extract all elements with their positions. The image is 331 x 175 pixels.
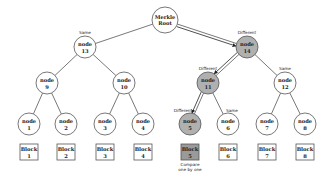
block-number: 3: [103, 153, 107, 159]
block-label: Block: [97, 146, 114, 152]
block-label: Block: [21, 146, 38, 152]
node-label: node: [22, 118, 37, 124]
node-number: 1: [27, 125, 31, 131]
node-number: 14: [243, 48, 251, 54]
node-number: 4: [141, 125, 145, 131]
node-label: node: [201, 77, 216, 83]
merkle-root-label-line2: Root: [158, 20, 172, 26]
compare-note: Compare one by one: [178, 162, 202, 172]
tree-edge: [55, 55, 77, 76]
tree-node-5: node5Different: [174, 108, 201, 135]
block-number: 4: [141, 153, 145, 159]
node-number: 8: [303, 125, 307, 131]
tree-node-14: node14Different: [236, 30, 258, 59]
node-label: node: [117, 77, 132, 83]
difference-arrow: [214, 53, 237, 74]
block-number: 1: [27, 153, 31, 159]
tree-edge: [33, 93, 42, 114]
node-number: 12: [281, 84, 289, 90]
node-label: node: [278, 77, 293, 83]
tree-node-4: node4: [132, 113, 154, 135]
tree-nodes: node13Samenode14Differentnode9node10node…: [18, 30, 316, 136]
merkle-root-node: Merkle Root: [152, 7, 178, 33]
block-label: Block: [182, 146, 199, 152]
block-number: 7: [265, 153, 269, 159]
node-label: node: [59, 118, 74, 124]
block-4: Block4: [134, 144, 152, 160]
block-label: Block: [220, 146, 237, 152]
merkle-tree-diagram: Merkle Root node13Samenode14Differentnod…: [0, 0, 331, 175]
block-label: Block: [58, 146, 75, 152]
tree-node-10: node10: [113, 72, 135, 94]
node-label: node: [183, 118, 198, 124]
node-status-label: Different: [199, 66, 218, 71]
block-number: 6: [226, 153, 230, 159]
tree-node-12: node12Same: [274, 66, 296, 95]
tree-edges: [33, 24, 300, 114]
node-label: node: [240, 41, 255, 47]
node-status-label: Same: [226, 108, 238, 113]
compare-note-line2: one by one: [178, 167, 202, 172]
block-2: Block2: [57, 144, 75, 160]
node-number: 6: [226, 125, 230, 131]
tree-node-6: node6Same: [217, 108, 239, 135]
data-blocks: Block1Block2Block3Block4Block5Block6Bloc…: [20, 144, 314, 160]
node-number: 2: [64, 125, 68, 131]
block-label: Block: [135, 146, 152, 152]
block-8: Block8: [296, 144, 314, 160]
tree-node-3: node3: [94, 113, 116, 135]
node-status-label: Same: [279, 66, 291, 71]
tree-node-9: node9: [36, 72, 58, 94]
node-label: node: [298, 118, 313, 124]
block-1: Block1: [20, 144, 38, 160]
tree-edge: [213, 93, 223, 114]
tree-node-1: node1: [18, 113, 40, 135]
node-number: 9: [45, 84, 49, 90]
tree-node-8: node8: [294, 113, 316, 135]
tree-edge: [93, 54, 116, 75]
tree-edge: [95, 24, 152, 43]
node-number: 3: [103, 125, 107, 131]
node-number: 7: [265, 125, 269, 131]
tree-edge: [216, 54, 239, 75]
node-label: node: [40, 77, 55, 83]
block-6: Block6: [219, 144, 237, 160]
block-label: Block: [259, 146, 276, 152]
difference-arrow: [177, 27, 236, 46]
node-label: node: [221, 118, 236, 124]
tree-node-13: node13Same: [74, 30, 96, 59]
node-label: node: [78, 41, 93, 47]
tree-edge: [129, 93, 139, 114]
node-number: 5: [188, 125, 192, 131]
tree-node-2: node2: [55, 113, 77, 135]
node-number: 10: [120, 84, 128, 90]
node-status-label: Same: [79, 30, 91, 35]
block-7: Block7: [258, 144, 276, 160]
tree-edge: [52, 93, 62, 114]
block-number: 8: [303, 153, 307, 159]
block-number: 2: [64, 153, 68, 159]
tree-edge: [255, 55, 277, 76]
node-status-label: Different: [174, 108, 193, 113]
tree-node-7: node7: [256, 113, 278, 135]
tree-edge: [290, 93, 300, 114]
node-status-label: Different: [238, 30, 257, 35]
block-3: Block3: [96, 144, 114, 160]
node-label: node: [136, 118, 151, 124]
tree-edge: [177, 24, 236, 43]
tree-edge: [110, 93, 120, 114]
block-number: 5: [188, 153, 192, 159]
block-label: Block: [297, 146, 314, 152]
node-number: 11: [204, 84, 212, 90]
node-number: 13: [81, 48, 89, 54]
node-label: node: [98, 118, 113, 124]
tree-node-11: node11Different: [197, 66, 219, 95]
node-label: node: [260, 118, 275, 124]
tree-edge: [271, 93, 280, 114]
block-5: Block5: [181, 144, 199, 160]
